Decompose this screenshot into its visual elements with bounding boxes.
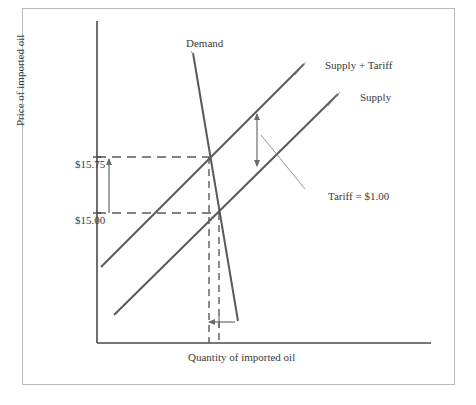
supply-label-leader-line: [328, 92, 340, 106]
figure-frame: $15.75 $15.00 Demand Supply + Tariff Sup…: [22, 8, 455, 385]
figure-screenshot: $15.75 $15.00 Demand Supply + Tariff Sup…: [0, 0, 476, 405]
curve-label-supply: Supply: [360, 91, 391, 103]
y-tick-label-low: $15.00: [75, 214, 105, 226]
x-axis-title: Quantity of imported oil: [188, 351, 295, 363]
curve-label-demand: Demand: [186, 37, 223, 49]
curve-demand: [193, 53, 238, 321]
curve-supply-plus-tariff: [101, 64, 304, 267]
tariff-label-leader-line: [261, 135, 305, 189]
y-axis-title: Price of imported oil: [14, 6, 26, 126]
curve-label-supply-plus-tariff: Supply + Tariff: [325, 59, 392, 71]
supply-tariff-label-leader-line: [295, 62, 306, 75]
curve-supply: [114, 94, 338, 315]
annotation-label-tariff: Tariff = $1.00: [328, 190, 389, 202]
y-tick-label-high: $15.75: [75, 158, 105, 170]
